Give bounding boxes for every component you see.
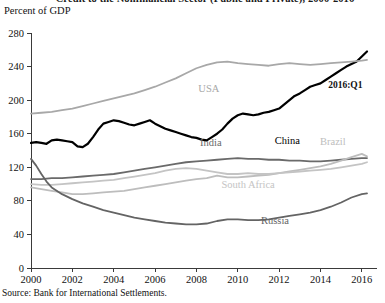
x-tick-label: 2006	[145, 274, 166, 285]
y-tick-label: 200	[8, 95, 24, 106]
x-tick-label: 2012	[269, 274, 290, 285]
y-tick-label: 160	[8, 128, 24, 139]
series-label-brazil: Brazil	[320, 136, 346, 147]
source-note: Source: Bank for International Settlemen…	[2, 288, 167, 298]
x-tick-label: 2000	[21, 274, 42, 285]
series-label-south-africa: South Africa	[221, 179, 275, 190]
y-tick-label: 240	[8, 61, 24, 72]
series-line-brazil	[31, 154, 367, 194]
y-tick-label: 80	[14, 195, 25, 206]
chart-container: Credit to the Nonfinancial Sector (Publi…	[0, 0, 385, 303]
series-label-china: China	[275, 135, 300, 146]
annotation-2016q1: 2016:Q1	[328, 80, 363, 90]
series-line-china	[31, 51, 367, 147]
y-tick-label: 120	[8, 162, 24, 173]
series-label-usa: USA	[198, 83, 219, 94]
series-label-india: India	[200, 137, 222, 148]
x-tick-label: 2014	[310, 274, 332, 285]
axes: 0408012016020024028020002002200420062008…	[8, 28, 377, 286]
y-tick-label: 280	[8, 28, 24, 39]
x-tick-label: 2004	[103, 274, 125, 285]
plot-area: 0408012016020024028020002002200420062008…	[0, 0, 385, 303]
x-tick-label: 2002	[62, 274, 83, 285]
series-label-russia: Russia	[261, 215, 289, 226]
x-tick-label: 2010	[227, 274, 248, 285]
x-tick-label: 2016	[351, 274, 372, 285]
y-tick-label: 40	[14, 229, 25, 240]
series-line-south-africa	[31, 162, 367, 185]
y-tick-label: 0	[19, 263, 24, 274]
series-lines	[31, 51, 367, 224]
x-tick-label: 2008	[186, 274, 207, 285]
